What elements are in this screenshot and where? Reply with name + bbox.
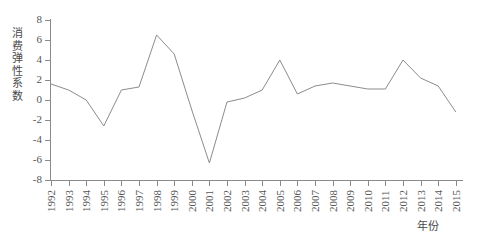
x-tick-mark (280, 181, 281, 186)
x-tick-mark (51, 181, 52, 186)
x-tick-label: 2003 (239, 190, 251, 232)
x-tick-label: 2010 (362, 190, 374, 232)
y-tick-mark (45, 40, 50, 41)
y-tick-label: 8 (2, 13, 42, 25)
x-tick-mark (245, 181, 246, 186)
x-tick-label: 2001 (203, 190, 215, 232)
y-tick-label: 4 (2, 53, 42, 65)
x-tick-mark (157, 181, 158, 186)
x-tick-label: 2007 (309, 190, 321, 232)
y-tick-label: -6 (2, 153, 42, 165)
x-tick-mark (438, 181, 439, 186)
x-tick-label: 2005 (274, 190, 286, 232)
y-tick-label: 6 (2, 33, 42, 45)
y-tick-mark (45, 140, 50, 141)
series-polyline (51, 35, 456, 163)
x-tick-label: 2004 (256, 190, 268, 232)
y-tick-mark (45, 160, 50, 161)
x-tick-mark (69, 181, 70, 186)
x-tick-mark (368, 181, 369, 186)
x-tick-mark (227, 181, 228, 186)
x-tick-mark (192, 181, 193, 186)
chart-container: 消 费 弹 性 系 数 年份 86420-2-4-6-8 19921993199… (0, 0, 482, 239)
x-tick-mark (456, 181, 457, 186)
y-tick-mark (45, 100, 50, 101)
x-tick-label: 1993 (63, 190, 75, 232)
x-tick-mark (385, 181, 386, 186)
x-tick-label: 1996 (115, 190, 127, 232)
y-axis-line (50, 19, 51, 181)
x-tick-label: 2015 (450, 190, 462, 232)
x-tick-label: 2008 (327, 190, 339, 232)
x-tick-mark (104, 181, 105, 186)
x-tick-label: 1997 (133, 190, 145, 232)
x-tick-label: 2012 (397, 190, 409, 232)
x-tick-mark (333, 181, 334, 186)
x-tick-mark (403, 181, 404, 186)
x-tick-label: 2011 (379, 190, 391, 232)
x-tick-label: 1992 (45, 190, 57, 232)
x-tick-label: 2000 (186, 190, 198, 232)
x-tick-mark (174, 181, 175, 186)
x-tick-mark (139, 181, 140, 186)
y-tick-label: -4 (2, 133, 42, 145)
y-tick-label: -2 (2, 113, 42, 125)
x-tick-mark (350, 181, 351, 186)
y-tick-label: -8 (2, 173, 42, 185)
x-axis-line (50, 180, 463, 181)
x-tick-label: 2014 (432, 190, 444, 232)
x-tick-label: 2002 (221, 190, 233, 232)
y-tick-mark (45, 20, 50, 21)
x-tick-label: 1998 (151, 190, 163, 232)
y-tick-label: 0 (2, 93, 42, 105)
x-tick-mark (315, 181, 316, 186)
x-tick-mark (86, 181, 87, 186)
y-tick-mark (45, 80, 50, 81)
x-tick-label: 1994 (80, 190, 92, 232)
x-tick-label: 2006 (291, 190, 303, 232)
x-tick-mark (297, 181, 298, 186)
y-tick-mark (45, 120, 50, 121)
y-tick-label: 2 (2, 73, 42, 85)
x-tick-label: 1999 (168, 190, 180, 232)
x-tick-label: 1995 (98, 190, 110, 232)
y-tick-mark (45, 180, 50, 181)
x-tick-label: 2013 (415, 190, 427, 232)
x-tick-mark (209, 181, 210, 186)
x-tick-label: 2009 (344, 190, 356, 232)
x-tick-mark (421, 181, 422, 186)
x-tick-mark (262, 181, 263, 186)
y-tick-mark (45, 60, 50, 61)
x-tick-mark (121, 181, 122, 186)
